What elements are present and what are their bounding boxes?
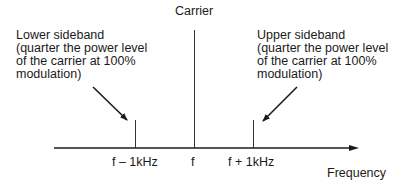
upper-annotation-line: modulation) (257, 68, 388, 81)
tick-label-upper: f + 1kHz (228, 156, 274, 169)
axis-arrowhead-icon (349, 145, 359, 151)
upper-sideband-annotation: Upper sideband (quarter the power level … (257, 29, 388, 81)
tick-label-lower: f – 1kHz (112, 156, 158, 169)
axis-label-frequency: Frequency (327, 167, 386, 180)
upper-annotation-arrow-icon (263, 87, 297, 121)
carrier-label: Carrier (175, 5, 213, 18)
lower-sideband-annotation: Lower sideband (quarter the power level … (16, 29, 147, 81)
tick-label-center: f (191, 156, 194, 169)
lower-annotation-line: modulation) (16, 68, 147, 81)
lower-annotation-arrow-icon (93, 87, 127, 120)
